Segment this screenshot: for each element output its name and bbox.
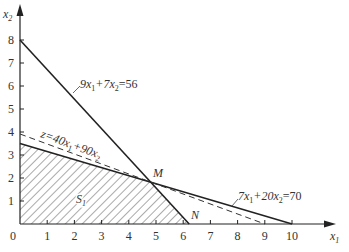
origin-label: 0: [10, 229, 16, 243]
svg-text:8: 8: [235, 229, 241, 243]
constraint-label-1: 9x1+7x2=56: [80, 77, 138, 93]
svg-text:3: 3: [8, 148, 14, 162]
feasible-region-s1: [20, 144, 189, 225]
x-axis-arrow-icon: [324, 221, 336, 228]
point-n-label: N: [190, 208, 200, 222]
svg-text:9: 9: [262, 229, 268, 243]
svg-text:1: 1: [8, 194, 14, 208]
x-tick-labels: 1 2 3 4 5 6 7 8 9 10: [44, 229, 298, 243]
svg-text:5: 5: [8, 102, 14, 116]
y-tick-labels: 1 2 3 4 5 6 7 8: [8, 33, 14, 208]
svg-text:2: 2: [8, 171, 14, 185]
x-axis-label: x1: [329, 229, 339, 245]
svg-text:4: 4: [126, 229, 132, 243]
svg-text:2: 2: [71, 229, 77, 243]
y-axis-arrow-icon: [17, 4, 24, 16]
constraint-label-2: 7x1+20x2=70: [238, 189, 302, 205]
svg-text:10: 10: [286, 229, 298, 243]
svg-text:8: 8: [8, 33, 14, 47]
svg-text:6: 6: [8, 79, 14, 93]
svg-text:7: 7: [8, 56, 14, 70]
svg-text:7: 7: [207, 229, 213, 243]
svg-text:6: 6: [180, 229, 186, 243]
svg-text:1: 1: [44, 229, 50, 243]
point-m-label: M: [152, 166, 164, 180]
y-axis-label: x2: [2, 7, 12, 23]
svg-text:3: 3: [99, 229, 105, 243]
svg-text:5: 5: [153, 229, 159, 243]
lp-graph: 0 1 2 3 4 5 6 7 8 9 10 1 2 3 4 5 6 7 8 x…: [0, 0, 349, 252]
leader-line-1: [73, 86, 80, 93]
svg-text:4: 4: [8, 125, 14, 139]
